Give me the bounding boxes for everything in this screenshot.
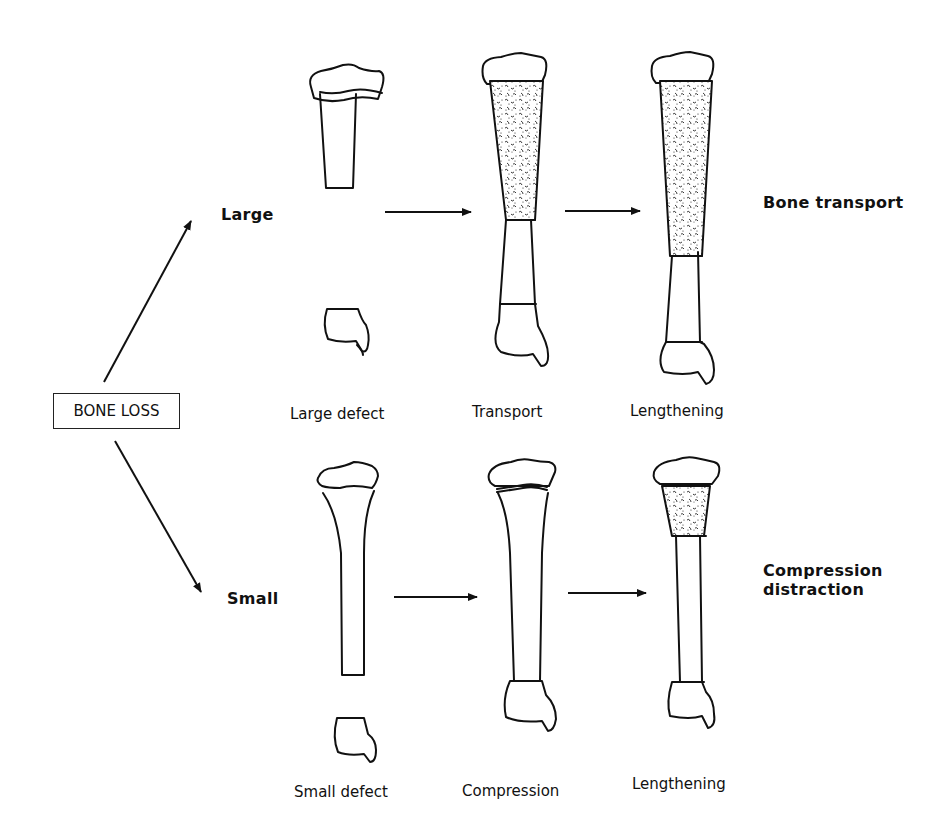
bone-lengthening-large [652,52,715,384]
bone-lengthening-small [654,457,720,728]
large-label: Large [221,205,274,224]
bone-small-defect-distal [335,718,376,762]
caption-compression: Compression [462,782,559,800]
bone-loss-label: BONE LOSS [74,402,160,420]
branch-arrow-large [104,221,191,382]
branch-arrow-small [115,441,201,592]
caption-large-defect: Large defect [290,405,384,423]
caption-transport: Transport [472,403,542,421]
outcome-compression-line1: Compression [763,561,883,580]
bone-small-defect-proximal [318,462,379,675]
bone-compression [489,459,556,731]
outcome-compression-line2: distraction [763,580,864,599]
small-label: Small [227,589,278,608]
outcome-bone-transport: Bone transport [763,193,903,212]
caption-lengthening-small: Lengthening [632,775,726,793]
caption-lengthening-large: Lengthening [630,402,724,420]
caption-small-defect: Small defect [294,783,388,801]
bone-transport [483,53,549,366]
bone-loss-box: BONE LOSS [53,393,180,429]
bone-large-defect-proximal [310,64,383,188]
bone-large-defect-distal [325,309,369,355]
